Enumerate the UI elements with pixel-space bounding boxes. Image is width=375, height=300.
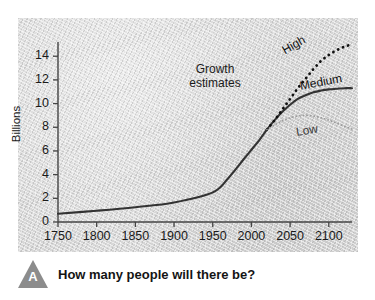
annotation-growth-estimates: Growthestimates — [170, 62, 260, 90]
series-line-medium — [58, 88, 352, 214]
caption-badge-triangle-icon: A — [18, 260, 48, 288]
y-tick-label-0: 0 — [27, 214, 49, 228]
y-tick-label-2: 2 — [27, 190, 49, 204]
y-tick-label-14: 14 — [27, 48, 49, 62]
x-tick-label-2050: 2050 — [268, 229, 312, 243]
y-tick-label-6: 6 — [27, 143, 49, 157]
y-tick-label-12: 12 — [27, 72, 49, 86]
caption-text: How many people will there be? — [58, 267, 255, 282]
y-tick-label-4: 4 — [27, 167, 49, 181]
x-axis-ticks — [58, 222, 329, 227]
x-tick-label-1750: 1750 — [36, 229, 80, 243]
x-tick-label-1850: 1850 — [113, 229, 157, 243]
y-axis-title: Billions — [10, 92, 22, 156]
x-tick-label-2100: 2100 — [307, 229, 351, 243]
figure-caption: A How many people will there be? — [18, 256, 358, 292]
x-tick-label-1950: 1950 — [191, 229, 235, 243]
y-tick-label-8: 8 — [27, 119, 49, 133]
y-tick-label-10: 10 — [27, 96, 49, 110]
figure-container: Billions Growthestimates High Medium Low… — [0, 0, 375, 300]
y-axis-ticks — [53, 56, 58, 222]
x-tick-label-1900: 1900 — [152, 229, 196, 243]
x-tick-label-1800: 1800 — [75, 229, 119, 243]
chart-plot — [0, 0, 375, 300]
caption-badge-letter: A — [18, 269, 48, 284]
x-tick-label-2000: 2000 — [229, 229, 273, 243]
